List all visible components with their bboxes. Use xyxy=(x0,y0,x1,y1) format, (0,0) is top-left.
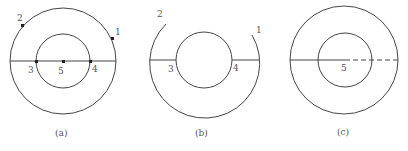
caption-a: (a) xyxy=(55,128,67,138)
label-1: 1 xyxy=(115,27,121,37)
caption-b: (b) xyxy=(195,128,208,138)
label-3: 3 xyxy=(28,65,34,75)
label-4: 4 xyxy=(233,63,239,73)
figure-b xyxy=(149,24,260,118)
figure-c xyxy=(290,6,399,114)
point-3 xyxy=(35,60,38,63)
diagram-canvas: 2 1 3 5 4 (a) 2 1 3 4 (b) 5 (c) xyxy=(0,0,408,151)
outer-arc xyxy=(150,24,260,118)
label-5: 5 xyxy=(341,63,347,73)
label-5: 5 xyxy=(58,66,64,76)
label-2: 2 xyxy=(157,9,163,19)
caption-c: (c) xyxy=(337,127,349,137)
label-3: 3 xyxy=(168,64,174,74)
point-2 xyxy=(21,24,24,27)
point-4 xyxy=(89,60,92,63)
label-2: 2 xyxy=(17,13,23,23)
label-1: 1 xyxy=(256,25,262,35)
figure-a-points xyxy=(21,24,114,63)
point-1 xyxy=(111,37,114,40)
label-4: 4 xyxy=(92,64,98,74)
point-5 xyxy=(62,60,65,63)
inner-circle xyxy=(176,32,232,88)
